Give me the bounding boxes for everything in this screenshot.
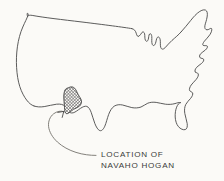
map-illustration: LOCATION OF NAVAHO HOGAN bbox=[0, 0, 224, 181]
caption-line-2: NAVAHO HOGAN bbox=[101, 161, 175, 170]
pacific-coast-path bbox=[16, 16, 34, 106]
northern-border-path bbox=[27, 13, 132, 28]
southwest-border-path bbox=[34, 104, 68, 111]
figure-container: LOCATION OF NAVAHO HOGAN bbox=[0, 0, 224, 181]
curved-leader-arrow bbox=[48, 111, 96, 155]
gulf-coast-path bbox=[68, 102, 180, 131]
atlantic-coast-path bbox=[175, 72, 198, 130]
new-england-maine-path bbox=[181, 10, 212, 72]
caption-line-1: LOCATION OF bbox=[101, 150, 164, 159]
arrow-head-icon bbox=[58, 111, 64, 117]
great-lakes-path bbox=[132, 29, 181, 50]
